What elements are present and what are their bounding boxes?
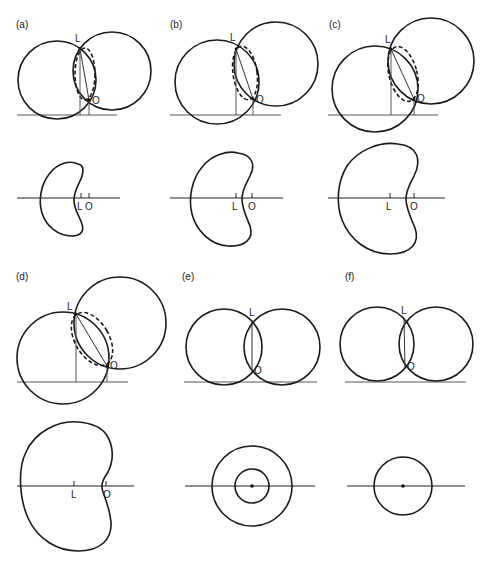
tick-O-label: O [248,201,256,212]
panel-c: (c) L O L O [328,18,474,254]
panel-f-bottom-diagram [347,457,465,515]
point-L-label: L [385,34,391,45]
bean-curve [338,143,418,254]
point-O-marker [88,99,91,102]
point-O-marker [252,98,255,101]
panel-e-top-diagram: L O [184,307,320,385]
left-circle [17,312,109,404]
left-circle [332,46,418,132]
panel-f-top-diagram: L O [340,305,473,382]
right-circle [73,32,151,110]
tick-L-label: L [71,489,77,500]
point-L-marker [75,313,78,316]
panel-c-top-diagram: L O [328,18,474,132]
panel-b-bean: L O [170,152,283,246]
left-circle [18,41,96,119]
point-L-label: L [401,305,407,316]
panel-label-b: (b) [170,19,182,30]
point-L-label: L [249,307,255,318]
left-circle [175,40,259,124]
point-O-label: O [110,360,118,371]
panel-c-bean: L O [328,143,445,254]
point-O-marker [413,98,416,101]
panel-a: (a) L O L O [16,19,151,236]
point-L-marker [390,48,393,51]
bean-curve [190,152,252,246]
panel-b: (b) L O L O [170,19,318,246]
panel-a-top-diagram: L O [17,32,151,119]
panel-e: (e) L O [182,271,320,526]
dashed-ellipse [75,48,95,100]
point-O-label: O [417,93,425,104]
point-O-marker [106,365,109,368]
point-L-label: L [75,33,81,44]
panel-d-bean: L O [17,422,134,551]
panel-f: (f) L O [340,271,473,515]
point-L-label: L [67,301,73,312]
tick-O-label: O [103,489,111,500]
panel-label-f: (f) [345,271,354,282]
right-circle [388,18,474,104]
left-circle [186,309,262,385]
right-circle [234,22,318,106]
panel-label-a: (a) [16,19,28,30]
panel-label-d: (d) [16,271,28,282]
panel-d: (d) L O L O [16,271,166,551]
point-O-label: O [254,365,262,376]
bean-curve [40,162,83,236]
tick-L-label: L [77,201,83,212]
point-O-label: O [407,361,415,372]
center-point [401,484,405,488]
tick-O-label: O [85,201,93,212]
panel-label-e: (e) [182,271,194,282]
tick-L-label: L [232,201,238,212]
tick-O-label: O [410,201,418,212]
point-L-marker [235,48,238,51]
point-L-label: L [230,32,236,43]
point-O-label: O [256,94,264,105]
panel-a-bean: L O [17,162,120,236]
right-circle [74,277,166,369]
panel-label-c: (c) [329,19,341,30]
figure-canvas: (a) L O L O (b) [0,0,484,561]
tick-L-label: L [386,201,392,212]
panel-e-bottom-diagram [185,446,315,526]
center-point [250,484,254,488]
panel-b-top-diagram: L O [170,22,318,124]
left-circle [340,307,414,381]
point-O-label: O [92,95,100,106]
point-L-marker [79,48,82,51]
panel-d-top-diagram: L O [17,277,166,404]
